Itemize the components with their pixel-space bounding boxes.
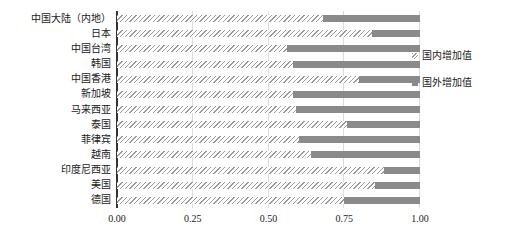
bar-track [117,182,420,189]
bar-track [117,197,420,204]
category-label: 菲律宾 [0,132,111,147]
foreign-value-segment [375,182,420,189]
domestic-value-segment [117,45,287,52]
plot-area [117,11,420,208]
hatched-swatch-icon [412,53,418,59]
category-label: 新加坡 [0,87,111,102]
foreign-value-segment [347,121,420,128]
bar-track [117,136,420,143]
bar-row [117,26,420,41]
legend-item-domestic: 国内增加值 [412,51,472,61]
category-label: 越南 [0,147,111,162]
bar-track [117,151,420,158]
category-label: 中国大陆（内地） [0,11,111,26]
bar-track [117,121,420,128]
category-label: 美国 [0,178,111,193]
category-label: 中国台湾 [0,41,111,56]
domestic-value-segment [117,61,293,68]
bar-row [117,72,420,87]
bar-track [117,61,420,68]
bar-track [117,30,420,37]
bar-row [117,11,420,26]
solid-swatch-icon [412,80,418,86]
bar-track [117,76,420,83]
bar-row [117,87,420,102]
domestic-value-segment [117,30,372,37]
foreign-value-segment [372,30,420,37]
category-label: 马来西亚 [0,102,111,117]
domestic-value-segment [117,91,293,98]
foreign-value-segment [323,15,420,22]
bar-row [117,56,420,71]
domestic-value-segment [117,15,323,22]
bar-track [117,106,420,113]
bar-track [117,91,420,98]
foreign-value-segment [311,151,420,158]
category-label: 泰国 [0,117,111,132]
foreign-value-segment [359,76,420,83]
stacked-bar-chart: 中国大陆（内地）日本中国台湾韩国中国香港新加坡马来西亚泰国菲律宾越南印度尼西亚美… [0,0,508,240]
foreign-value-segment [384,167,420,174]
bar-row [117,41,420,56]
x-tick-label: 1.00 [411,214,429,224]
x-tick-label: 0.50 [260,214,278,224]
bars [117,11,420,208]
category-label: 中国香港 [0,72,111,87]
legend-item-foreign: 国外增加值 [412,78,472,88]
foreign-value-segment [293,91,420,98]
bar-row [117,132,420,147]
legend-label-foreign: 国外增加值 [422,78,472,88]
category-axis-labels: 中国大陆（内地）日本中国台湾韩国中国香港新加坡马来西亚泰国菲律宾越南印度尼西亚美… [0,11,111,208]
category-label: 日本 [0,26,111,41]
bar-row [117,178,420,193]
domestic-value-segment [117,197,344,204]
x-tick-label: 0.25 [184,214,202,224]
category-label: 韩国 [0,56,111,71]
bar-row [117,147,420,162]
bar-row [117,193,420,208]
bar-row [117,102,420,117]
bar-row [117,117,420,132]
domestic-value-segment [117,121,347,128]
domestic-value-segment [117,106,296,113]
x-tick-label: 0.75 [336,214,354,224]
x-tick-label: 0.00 [108,214,126,224]
category-label: 印度尼西亚 [0,163,111,178]
domestic-value-segment [117,136,299,143]
foreign-value-segment [299,136,420,143]
bar-track [117,167,420,174]
domestic-value-segment [117,76,359,83]
category-label: 德国 [0,193,111,208]
bar-track [117,15,420,22]
bar-track [117,45,420,52]
bar-row [117,163,420,178]
domestic-value-segment [117,182,375,189]
domestic-value-segment [117,151,311,158]
foreign-value-segment [296,106,420,113]
foreign-value-segment [344,197,420,204]
domestic-value-segment [117,167,384,174]
foreign-value-segment [287,45,420,52]
foreign-value-segment [293,61,420,68]
legend: 国内增加值 国外增加值 [412,51,472,105]
legend-label-domestic: 国内增加值 [422,51,472,61]
